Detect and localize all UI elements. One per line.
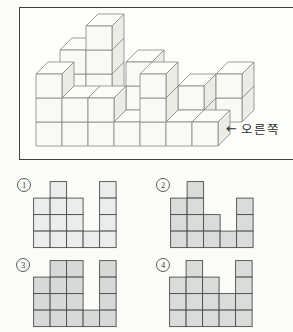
option-2-number[interactable]: 2 [156,178,170,192]
option-2-grid[interactable] [170,181,255,253]
view-direction-label: 오른쪽 [241,119,280,138]
view-direction-pointer: ← 오른쪽 [226,119,280,138]
option-3-grid[interactable] [33,260,118,332]
worksheet-page: ← 오른쪽 1 2 3 4 [0,0,293,332]
option-4-grid[interactable] [169,260,254,332]
option-4-number[interactable]: 4 [156,258,170,272]
option-3-number[interactable]: 3 [16,258,30,272]
option-1-grid[interactable] [33,181,118,253]
option-1-number[interactable]: 1 [17,178,31,192]
left-arrow-icon: ← [226,122,237,135]
